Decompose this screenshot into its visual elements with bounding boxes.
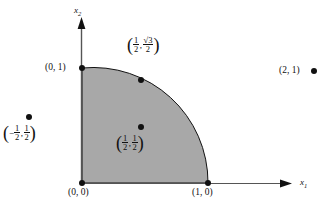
point-marker-y-intercept (79, 65, 85, 71)
label-x-intercept: (1, 0) (192, 188, 213, 198)
label-interior-point: (12,12) (116, 134, 144, 153)
close-paren: ) (30, 123, 36, 143)
fraction-denominator: 2 (143, 45, 154, 54)
radicand: 3 (148, 35, 152, 45)
fraction-one-half: 12 (122, 134, 128, 153)
y-axis-arrowhead (78, 17, 86, 29)
fraction-denominator: 2 (133, 45, 139, 54)
point-marker-x-intercept (205, 180, 211, 186)
fraction-denominator: 2 (24, 133, 30, 142)
point-marker-exterior-right (311, 68, 317, 74)
point-marker-arc-point (138, 77, 144, 83)
label-y-intercept: (0, 1) (45, 63, 66, 73)
figure-canvas (0, 0, 327, 213)
geometry-figure: x2 x1 (0, 0) (1, 0) (0, 1) (2, 1) (12,√3… (0, 0, 327, 213)
label-origin: (0, 0) (68, 188, 89, 198)
close-paren: ) (153, 35, 159, 55)
point-marker-interior (138, 124, 144, 130)
label-exterior-point-right: (2, 1) (279, 66, 300, 76)
fraction-one-half: 12 (14, 124, 20, 143)
x-axis-arrowhead (280, 180, 292, 188)
point-marker-origin (79, 180, 85, 186)
fraction-denominator: 2 (122, 143, 128, 152)
fraction-denominator: 2 (132, 143, 138, 152)
label-exterior-point-left: (−12,12) (3, 124, 36, 143)
y-axis-label: x2 (74, 6, 81, 17)
shaded-quarter-disk (82, 67, 208, 183)
open-paren: ( (3, 123, 9, 143)
fraction-one-half-second: 12 (132, 134, 138, 153)
label-arc-point: (12,√32) (127, 36, 159, 55)
point-marker-exterior-left (26, 114, 32, 120)
fraction-denominator: 2 (14, 133, 20, 142)
fraction-sqrt3-over-2: √32 (143, 36, 154, 55)
close-paren: ) (138, 133, 144, 153)
x-axis-label: x1 (300, 178, 307, 189)
y-axis-label-subscript: 2 (78, 10, 81, 17)
fraction-one-half-second: 12 (24, 124, 30, 143)
x-axis-label-subscript: 1 (304, 182, 307, 189)
fraction-one-half: 12 (133, 36, 139, 55)
